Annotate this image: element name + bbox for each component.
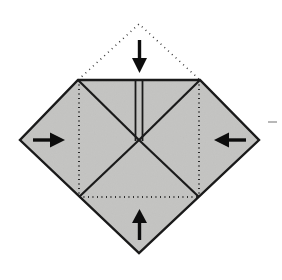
- origami-diagram-figure: [0, 0, 282, 280]
- origami-illustration: [0, 0, 282, 280]
